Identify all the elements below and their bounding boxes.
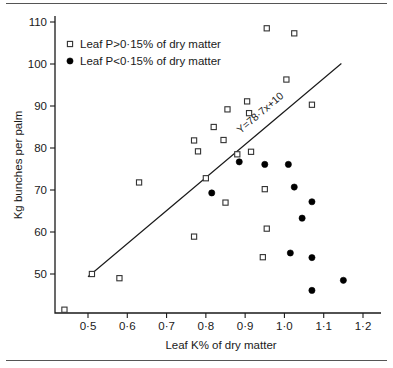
data-point-open-square [62, 307, 67, 312]
legend-item-label: Leaf P<0·15% of dry matter [80, 55, 221, 67]
data-point-open-square [136, 180, 141, 185]
data-point-filled-circle [236, 159, 242, 165]
data-point-open-square [223, 200, 228, 205]
y-tick-label: 80 [34, 142, 47, 154]
data-point-filled-circle [209, 190, 215, 196]
x-tick-label: 1·2 [355, 320, 372, 332]
data-point-open-square [284, 77, 289, 82]
fit-line-equation-label: Y=78·7x+10 [234, 89, 286, 135]
x-tick-label: 0·8 [198, 320, 215, 332]
legend-item-label: Leaf P>0·15% of dry matter [80, 38, 221, 50]
x-axis-title: Leaf K% of dry matter [165, 339, 276, 351]
y-axis-title: Kg bunches per palm [12, 111, 24, 220]
y-tick-label: 90 [34, 100, 47, 112]
data-point-open-square [191, 138, 196, 143]
y-tick-label: 70 [34, 184, 47, 196]
data-point-open-square [191, 234, 196, 239]
data-point-filled-circle [309, 287, 315, 293]
legend-marker-open-square [67, 41, 72, 46]
data-point-filled-circle [340, 277, 346, 283]
data-point-filled-circle [291, 184, 297, 190]
data-point-filled-circle [299, 215, 305, 221]
y-tick-label: 50 [34, 268, 47, 280]
data-point-open-square [309, 102, 314, 107]
data-point-open-square [203, 176, 208, 181]
data-point-open-square [221, 137, 226, 142]
data-point-open-square [246, 111, 251, 116]
data-point-filled-circle [309, 199, 315, 205]
data-point-open-square [225, 107, 230, 112]
data-point-open-square [195, 149, 200, 154]
data-point-open-square [292, 31, 297, 36]
data-point-open-square [264, 226, 269, 231]
data-point-open-square [260, 255, 265, 260]
y-tick-label: 110 [29, 16, 47, 28]
y-tick-label: 60 [34, 226, 47, 238]
data-point-open-square [264, 26, 269, 31]
regression-line: Y=78·7x+10 [88, 64, 341, 277]
x-tick-label: 0·7 [158, 320, 175, 332]
y-tick-label: 100 [28, 58, 47, 70]
axis-titles: Leaf K% of dry matterKg bunches per palm [12, 111, 277, 351]
data-point-filled-circle [309, 255, 315, 261]
data-point-open-square [235, 152, 240, 157]
data-point-open-square [117, 276, 122, 281]
fit-line-segment [88, 64, 341, 277]
chart-legend: Leaf P>0·15% of dry matterLeaf P<0·15% o… [67, 38, 221, 67]
figure-container: 50607080901001100·50·60·70·80·91·01·11·2… [0, 0, 393, 368]
legend-marker-filled-circle [67, 58, 73, 64]
data-point-open-square [245, 99, 250, 104]
data-point-filled-circle [287, 250, 293, 256]
x-tick-label: 0·5 [80, 320, 97, 332]
x-tick-label: 0·6 [119, 320, 136, 332]
data-point-filled-circle [262, 161, 268, 167]
data-point-filled-circle [285, 161, 291, 167]
data-point-open-square [248, 149, 253, 154]
x-tick-label: 1·0 [276, 320, 293, 332]
data-points [62, 26, 347, 313]
data-point-open-square [262, 187, 267, 192]
x-tick-label: 0·9 [237, 320, 254, 332]
x-tick-label: 1·1 [315, 320, 332, 332]
scatter-plot: 50607080901001100·50·60·70·80·91·01·11·2… [0, 0, 393, 368]
data-point-open-square [211, 124, 216, 129]
data-point-open-square [89, 271, 94, 276]
